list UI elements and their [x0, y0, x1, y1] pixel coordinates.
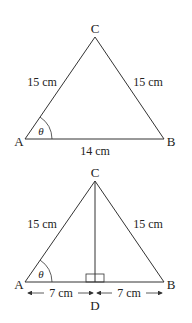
vertex-c-label: C [91, 21, 100, 36]
triangle-abc: C A B 15 cm 15 cm 14 cm θ [14, 21, 175, 158]
vertex-d-label: D [90, 298, 99, 313]
side-ac-label: 15 cm [27, 217, 57, 231]
side-bc-label: 15 cm [133, 217, 163, 231]
side-bc-label: 15 cm [133, 75, 163, 89]
vertex-c-label: C [91, 165, 100, 180]
vertex-b-label: B [167, 134, 176, 149]
side-ac-label: 15 cm [27, 75, 57, 89]
triangle-abc-with-altitude: C A B D 15 cm 15 cm θ 7 cm 7 cm [14, 165, 175, 313]
theta-label: θ [38, 125, 44, 137]
vertex-a-label: A [14, 134, 24, 149]
side-ab-label: 14 cm [80, 144, 110, 158]
vertex-b-label: B [167, 277, 176, 292]
segment-ad-label: 7 cm [49, 286, 73, 300]
triangle-diagrams: C A B 15 cm 15 cm 14 cm θ C A B D 15 cm … [0, 0, 192, 323]
vertex-a-label: A [14, 277, 24, 292]
segment-db-label: 7 cm [117, 286, 141, 300]
theta-label: θ [38, 268, 44, 280]
